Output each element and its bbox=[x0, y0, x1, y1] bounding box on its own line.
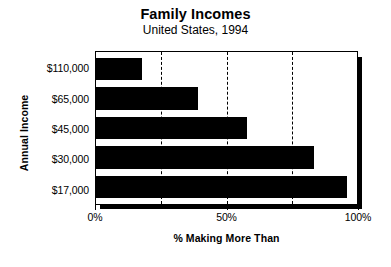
x-axis-tick-mark bbox=[95, 205, 96, 210]
bar-row bbox=[96, 113, 357, 143]
bar-row bbox=[96, 54, 357, 84]
y-axis-tick-label: $65,000 bbox=[36, 83, 93, 113]
bar bbox=[96, 117, 247, 139]
x-axis-tick-label: 0% bbox=[88, 211, 103, 223]
bar bbox=[96, 58, 142, 80]
bar bbox=[96, 87, 198, 109]
y-axis-tick-label: $45,000 bbox=[36, 114, 93, 144]
bar-row bbox=[96, 172, 357, 202]
chart-title-block: Family Incomes United States, 1994 bbox=[0, 6, 391, 38]
x-axis-tick-labels: 0% 50% 100% bbox=[95, 211, 358, 225]
x-axis-tick-label: 100% bbox=[345, 211, 371, 223]
x-axis-tick-mark bbox=[227, 205, 228, 210]
x-axis-title: % Making More Than bbox=[95, 232, 358, 244]
y-axis-tick-label: $17,000 bbox=[36, 175, 93, 205]
bar-row bbox=[96, 143, 357, 173]
bar bbox=[96, 146, 314, 168]
bar bbox=[96, 176, 347, 198]
page-title: Family Incomes bbox=[0, 6, 391, 22]
plot-area bbox=[95, 51, 358, 205]
bar-series bbox=[96, 52, 357, 204]
chart-figure: Family Incomes United States, 1994 Annua… bbox=[0, 0, 391, 267]
chart-subtitle: United States, 1994 bbox=[0, 23, 391, 38]
x-axis-tick-label: 50% bbox=[216, 211, 237, 223]
y-axis-title-text: Annual Income bbox=[18, 95, 30, 172]
y-axis-title: Annual Income bbox=[13, 78, 35, 188]
plot-inner bbox=[96, 52, 357, 204]
y-axis-tick-label: $110,000 bbox=[36, 53, 93, 83]
y-axis-tick-label: $30,000 bbox=[36, 144, 93, 174]
x-axis-tick-mark bbox=[358, 205, 359, 210]
bar-row bbox=[96, 84, 357, 114]
y-axis-tick-labels: $110,000 $65,000 $45,000 $30,000 $17,000 bbox=[36, 53, 93, 205]
